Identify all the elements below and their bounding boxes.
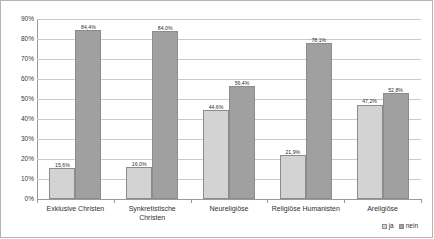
- x-axis-category-line: Synkretistische: [114, 204, 191, 213]
- legend-label: nein: [406, 223, 418, 230]
- y-axis-labels: 90%80%70%60%50%40%30%20%10%0%: [1, 19, 34, 199]
- x-axis-tick: [37, 199, 38, 203]
- x-axis-category-label: SynkretistischeChristen: [114, 204, 191, 222]
- bar-value-label: 47,2%: [362, 99, 377, 104]
- bar-nein[interactable]: 52,8%: [383, 93, 409, 199]
- legend-item-ja[interactable]: ja: [382, 223, 394, 230]
- bar-group: 47,2%52,8%: [344, 19, 421, 199]
- bar-value-label: 44,6%: [209, 105, 224, 110]
- y-axis-tick-label: 60%: [2, 76, 34, 83]
- bar-ja[interactable]: 47,2%: [357, 105, 383, 199]
- x-axis-tick: [267, 199, 268, 203]
- bar-ja[interactable]: 44,6%: [203, 110, 229, 199]
- x-axis-category-label: Neureligiöse: [191, 204, 268, 213]
- bar-nein[interactable]: 84,4%: [75, 30, 101, 199]
- x-axis-category-line: Religiöse Humanisten: [267, 204, 344, 213]
- bar-value-label: 78,1%: [311, 38, 326, 43]
- legend-swatch-icon: [399, 224, 404, 229]
- bar-ja[interactable]: 21,9%: [280, 155, 306, 199]
- y-axis-tick-label: 80%: [2, 36, 34, 43]
- x-axis-tick: [191, 199, 192, 203]
- chart-frame: 90%80%70%60%50%40%30%20%10%0% 15,6%84,4%…: [0, 0, 433, 238]
- bar-group: 44,6%56,4%: [191, 19, 268, 199]
- x-axis-tick: [344, 199, 345, 203]
- y-axis-tick-label: 20%: [2, 156, 34, 163]
- legend-swatch-icon: [382, 224, 387, 229]
- x-axis-tick: [421, 199, 422, 203]
- bar-group: 16,0%84,0%: [114, 19, 191, 199]
- x-axis-category-line: Areligiöse: [344, 204, 421, 213]
- chart-legend: janein: [382, 223, 418, 230]
- y-axis-tick-label: 30%: [2, 136, 34, 143]
- bar-value-label: 84,4%: [81, 25, 96, 30]
- x-axis-category-line: Neureligiöse: [191, 204, 268, 213]
- bar-nein[interactable]: 78,1%: [306, 43, 332, 199]
- bar-group: 15,6%84,4%: [37, 19, 114, 199]
- y-axis-tick-label: 10%: [2, 176, 34, 183]
- bar-value-label: 52,8%: [388, 88, 403, 93]
- x-axis-tick: [114, 199, 115, 203]
- x-axis-category-line: Exklusive Christen: [37, 204, 114, 213]
- bar-value-label: 15,6%: [55, 163, 70, 168]
- bar-group: 21,9%78,1%: [267, 19, 344, 199]
- x-axis-category-line: Christen: [114, 213, 191, 222]
- bar-value-label: 21,9%: [285, 150, 300, 155]
- y-axis-tick-label: 90%: [2, 16, 34, 23]
- x-axis-category-label: Areligiöse: [344, 204, 421, 213]
- bar-nein[interactable]: 84,0%: [152, 31, 178, 199]
- bar-nein[interactable]: 56,4%: [229, 86, 255, 199]
- gridline: [37, 199, 421, 200]
- x-axis-labels: Exklusive ChristenSynkretistischeChriste…: [37, 204, 421, 234]
- y-axis-tick-label: 50%: [2, 96, 34, 103]
- x-axis-category-label: Religiöse Humanisten: [267, 204, 344, 213]
- bar-value-label: 16,0%: [132, 162, 147, 167]
- y-axis-tick-label: 40%: [2, 116, 34, 123]
- bar-value-label: 56,4%: [235, 81, 250, 86]
- y-axis-tick-label: 70%: [2, 56, 34, 63]
- plot-area: 15,6%84,4%16,0%84,0%44,6%56,4%21,9%78,1%…: [37, 19, 421, 199]
- bar-value-label: 84,0%: [158, 26, 173, 31]
- x-axis-category-label: Exklusive Christen: [37, 204, 114, 213]
- y-axis-tick-label: 0%: [2, 196, 34, 203]
- bar-ja[interactable]: 16,0%: [126, 167, 152, 199]
- bar-ja[interactable]: 15,6%: [49, 168, 75, 199]
- legend-label: ja: [389, 223, 394, 230]
- legend-item-nein[interactable]: nein: [399, 223, 418, 230]
